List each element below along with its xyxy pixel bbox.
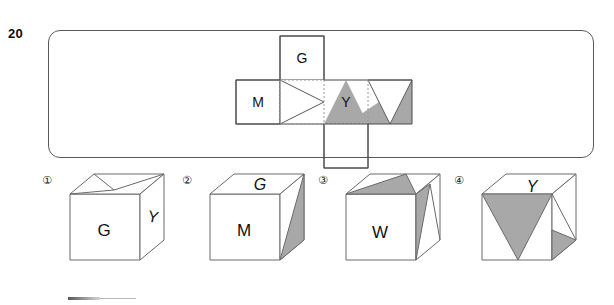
- option-2-front-label: M: [237, 221, 251, 240]
- option-1-number: ①: [42, 174, 52, 187]
- option-2-top-label: G: [254, 176, 266, 193]
- answer-options-row: ① G Y ②: [0, 168, 614, 268]
- cube-net-svg: G M Y: [236, 36, 408, 156]
- option-2-cube-svg: M G: [202, 168, 322, 264]
- net-label-M: M: [252, 94, 264, 110]
- option-1-front-label: G: [97, 221, 110, 240]
- answer-option-4[interactable]: ④ Y: [448, 168, 598, 264]
- net-label-Y: Y: [341, 94, 351, 110]
- cube-net-diagram: G M Y: [236, 36, 408, 156]
- option-4-top-label: Y: [527, 178, 539, 195]
- option-3-cube: W: [338, 168, 458, 264]
- option-1-cube-svg: G Y: [62, 168, 182, 264]
- option-3-front-label: W: [372, 223, 388, 242]
- option-3-number: ③: [318, 174, 328, 187]
- page-root: 20 G M Y: [0, 0, 614, 305]
- answer-option-3[interactable]: ③ W: [312, 168, 462, 264]
- option-2-number: ②: [182, 174, 192, 187]
- option-1-cube: G Y: [62, 168, 182, 264]
- option-4-cube-svg: Y: [474, 168, 594, 264]
- option-4-number: ④: [454, 174, 464, 187]
- net-cell-bottom: [324, 124, 368, 168]
- net-label-G: G: [297, 50, 308, 66]
- page-bottom-artifact-line: [100, 298, 136, 299]
- option-3-cube-svg: W: [338, 168, 458, 264]
- option-2-cube: M G: [202, 168, 322, 264]
- question-number: 20: [8, 26, 23, 41]
- answer-option-2[interactable]: ② M G: [176, 168, 326, 264]
- answer-option-1[interactable]: ① G Y: [36, 168, 186, 264]
- option-4-cube: Y: [474, 168, 594, 264]
- page-bottom-artifact: [68, 297, 100, 300]
